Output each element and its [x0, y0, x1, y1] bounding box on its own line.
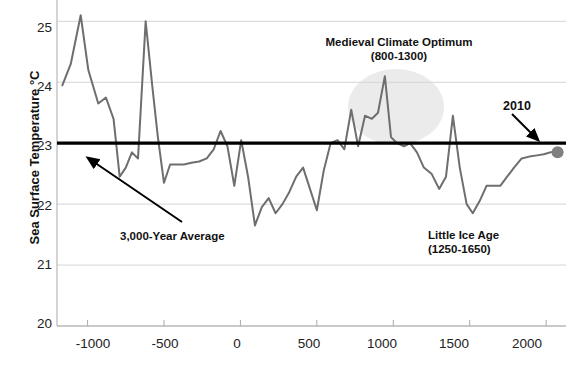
chart-gridlines [57, 21, 566, 326]
medieval-optimum-highlight [348, 69, 444, 145]
marker-2010-dot [552, 146, 564, 158]
chart-plot-area [0, 0, 569, 365]
modern-point-arrow [512, 114, 538, 140]
chart-container: Sea Surface Temperature °C 25 24 23 22 2… [0, 0, 569, 365]
average-line-arrow [88, 158, 182, 222]
temperature-series-line [62, 15, 557, 225]
x-axis-tick-marks [88, 320, 547, 326]
